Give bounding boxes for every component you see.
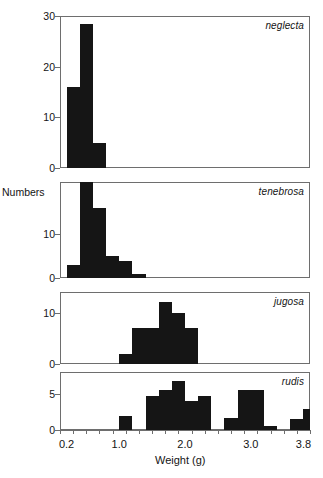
x-tick-label: 2.0 — [177, 438, 192, 450]
x-tick-minor — [126, 430, 127, 434]
bar — [146, 396, 159, 430]
x-tick-minor — [73, 430, 74, 434]
x-tick-minor — [192, 430, 193, 434]
x-tick-minor — [310, 430, 311, 434]
bar — [198, 396, 211, 430]
x-tick-label: 3.0 — [243, 438, 258, 450]
panel-label-neglecta: neglecta — [265, 20, 304, 31]
bar-series-neglecta — [60, 16, 310, 168]
y-tick — [55, 364, 60, 365]
y-tick — [55, 67, 60, 68]
bar — [159, 390, 172, 430]
x-tick-minor — [99, 430, 100, 434]
y-tick-label: 0 — [49, 358, 55, 370]
bar — [119, 261, 132, 278]
x-tick-minor — [218, 430, 219, 434]
x-tick-minor — [113, 430, 114, 434]
bar — [93, 143, 106, 168]
panel-jugosa: jugosa 010 — [60, 292, 310, 364]
bar — [119, 354, 132, 364]
x-tick-minor — [165, 430, 166, 434]
y-tick-label: 10 — [43, 111, 55, 123]
x-tick-minor — [205, 430, 206, 434]
bar — [172, 381, 185, 430]
x-axis-title: Weight (g) — [155, 454, 206, 466]
x-tick-minor — [257, 430, 258, 434]
bar — [146, 328, 159, 364]
bar — [251, 390, 264, 430]
x-tick-minor — [271, 430, 272, 434]
bar — [93, 208, 106, 278]
bar — [132, 274, 145, 278]
histogram-figure: neglecta 0102030 tenebrosa 010 jugosa 01… — [0, 0, 323, 478]
bar — [290, 419, 303, 430]
bar — [159, 302, 172, 364]
x-tick-label: 0.2 — [59, 438, 74, 450]
y-tick-label: 10 — [43, 307, 55, 319]
panel-label-tenebrosa: tenebrosa — [259, 186, 304, 197]
panel-tenebrosa: tenebrosa 010 — [60, 182, 310, 278]
bar — [224, 418, 237, 430]
panel-label-jugosa: jugosa — [274, 296, 304, 307]
y-tick — [55, 234, 60, 235]
x-tick-minor — [60, 430, 61, 434]
y-tick — [55, 313, 60, 314]
y-tick-label: 0 — [49, 424, 55, 436]
x-tick-minor — [244, 430, 245, 434]
y-tick — [55, 168, 60, 169]
x-tick-label: 1.0 — [112, 438, 127, 450]
x-tick-minor — [178, 430, 179, 434]
y-tick — [55, 278, 60, 279]
y-tick-label: 5 — [49, 388, 55, 400]
bar — [238, 390, 251, 430]
x-tick-minor — [86, 430, 87, 434]
bar — [303, 409, 310, 430]
bar — [132, 328, 145, 364]
bar-series-jugosa — [60, 292, 310, 364]
bar — [67, 265, 80, 278]
panel-rudis: rudis 05 — [60, 372, 310, 430]
x-tick-minor — [231, 430, 232, 434]
panel-label-rudis: rudis — [282, 376, 304, 387]
y-axis-title: Numbers — [2, 186, 45, 198]
x-axis: 0.21.02.03.03.8 — [60, 430, 310, 431]
bar — [106, 256, 119, 278]
panel-neglecta: neglecta 0102030 — [60, 16, 310, 168]
bar — [67, 87, 80, 168]
x-tick-label: 3.8 — [296, 438, 311, 450]
bar — [119, 416, 132, 431]
y-tick-label: 0 — [49, 162, 55, 174]
y-tick-label: 10 — [43, 228, 55, 240]
x-tick-minor — [139, 430, 140, 434]
bar — [185, 328, 198, 364]
bar — [172, 313, 185, 364]
x-tick-minor — [297, 430, 298, 434]
bar — [185, 401, 198, 430]
y-tick-label: 0 — [49, 272, 55, 284]
y-tick-label: 30 — [43, 10, 55, 22]
x-tick-minor — [152, 430, 153, 434]
y-tick — [55, 394, 60, 395]
bar — [80, 24, 93, 168]
bar — [80, 182, 93, 278]
y-tick — [55, 16, 60, 17]
y-tick — [55, 117, 60, 118]
y-tick-label: 20 — [43, 61, 55, 73]
x-tick-minor — [284, 430, 285, 434]
bar-series-rudis — [60, 372, 310, 430]
